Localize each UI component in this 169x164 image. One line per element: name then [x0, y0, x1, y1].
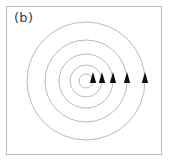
- flow-arrow-icon-3: [110, 72, 116, 83]
- flow-arrow-group: [90, 72, 148, 83]
- figure-panel-b: (b): [0, 0, 169, 164]
- streamline-circle-3: [59, 54, 113, 108]
- flow-arrow-icon-1: [90, 72, 96, 83]
- flow-arrow-icon-4: [124, 72, 130, 83]
- panel-label: (b): [14, 11, 33, 24]
- streamline-circle-2: [70, 65, 102, 97]
- flow-arrow-icon-5: [142, 72, 148, 83]
